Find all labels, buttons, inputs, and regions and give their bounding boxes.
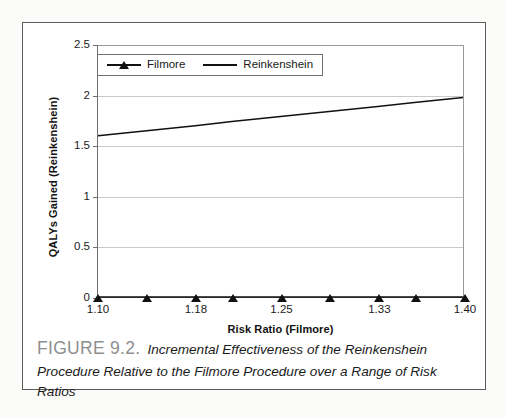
data-point-marker-filmore [411,294,421,302]
data-point-marker-filmore [191,294,201,302]
y-axis-tick-label: 0.5 [74,242,90,254]
legend-entry-filmore: Filmore [107,59,185,71]
y-axis-title: QALYs Gained (Reinkenshein) [47,77,59,277]
plot-area: 00.511.522.5 1.101.181.251.331.40 [97,45,464,298]
y-axis-tick-label: 1.5 [74,140,90,152]
data-point-marker-filmore [142,294,152,302]
legend-entry-reinkenshein: Reinkenshein [203,59,313,71]
x-axis-title: Risk Ratio (Filmore) [97,323,464,335]
x-axis-tick-label: 1.25 [270,304,292,316]
y-axis-tick-label: 2 [84,90,90,102]
data-point-marker-filmore [228,294,238,302]
chart-legend: Filmore Reinkenshein [97,54,323,76]
x-axis-tick-label: 1.33 [368,304,390,316]
y-axis-tick-label: 1 [84,191,90,203]
figure-frame: 00.511.522.5 1.101.181.251.331.40 Filmor… [22,22,486,390]
x-axis-tick-label: 1.10 [87,304,109,316]
series-layer [98,45,463,297]
legend-label-filmore: Filmore [147,59,185,71]
data-point-marker-filmore [325,294,335,302]
figure-caption: FIGURE 9.2.Incremental Effectiveness of … [37,336,473,401]
figure-number: FIGURE 9.2. [37,338,140,358]
legend-line-reinkenshein-icon [203,60,237,70]
data-point-marker-filmore [277,294,287,302]
x-axis-tick-label: 1.40 [454,304,476,316]
data-point-marker-filmore [374,294,384,302]
data-point-marker-filmore [93,294,103,302]
figure-root: 00.511.522.5 1.101.181.251.331.40 Filmor… [0,0,505,417]
data-point-marker-filmore [460,294,470,302]
legend-label-reinkenshein: Reinkenshein [243,59,313,71]
y-axis-tick-label: 2.5 [74,39,90,51]
series-line-reinkenshein [98,97,463,135]
legend-marker-filmore-icon [107,60,141,70]
x-axis-tick-label: 1.18 [185,304,207,316]
